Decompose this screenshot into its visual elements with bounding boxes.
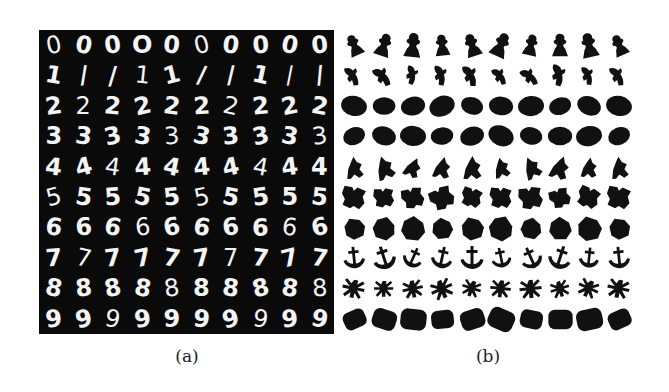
shape-blocky-icon <box>369 182 398 212</box>
shape-irregular-icon <box>399 152 428 182</box>
shape-bird-icon <box>605 60 634 90</box>
digit-sample: / <box>185 58 218 92</box>
shape-irregular-icon <box>458 152 487 182</box>
shape-insect-icon <box>340 273 369 303</box>
digit-sample: 7 <box>185 241 218 275</box>
mnist-digit-grid: 000O0000001//11//1//22222222223333333333… <box>39 30 334 334</box>
digit-sample: O <box>128 30 158 60</box>
shape-ellipse-icon <box>428 121 457 151</box>
caption-a: (a) <box>175 346 198 366</box>
shape-roundrect-icon <box>605 304 634 334</box>
shape-irregular-icon <box>369 152 398 182</box>
shape-blocky-icon <box>605 182 634 212</box>
shape-anchor-icon <box>458 243 487 273</box>
shape-polygon-icon <box>575 212 604 242</box>
shape-irregular-icon <box>487 152 516 182</box>
digit-sample: 7 <box>303 241 336 275</box>
shape-insect-icon <box>458 273 487 303</box>
shape-ellipse-icon <box>458 91 487 121</box>
shape-polygon-icon <box>546 212 575 242</box>
shape-anchor-icon <box>516 243 545 273</box>
shape-polygon-icon <box>399 212 428 242</box>
digit-sample: / <box>215 59 247 91</box>
shape-roundrect-icon <box>575 304 604 334</box>
digit-sample: 9 <box>157 304 187 334</box>
digit-sample: 6 <box>95 210 130 246</box>
shape-insect-icon <box>369 273 398 303</box>
digit-sample: 2 <box>155 89 188 123</box>
digit-sample: 5 <box>67 180 100 214</box>
shape-insect-icon <box>605 273 634 303</box>
shape-insect-icon <box>399 273 428 303</box>
shape-roundrect-icon <box>516 304 545 334</box>
digit-sample: 6 <box>37 210 70 244</box>
shape-irregular-icon <box>428 152 457 182</box>
shape-ellipse-icon <box>458 121 487 151</box>
shape-blocky-icon <box>575 182 604 212</box>
shape-polygon-icon <box>428 212 457 242</box>
digit-sample: 0 <box>96 28 129 62</box>
shape-insect-icon <box>428 273 457 303</box>
digit-sample: 1 <box>37 58 71 93</box>
shape-ellipse-icon <box>340 91 369 121</box>
digit-sample: 5 <box>275 182 305 212</box>
digit-sample: 2 <box>69 91 99 121</box>
shape-anchor-icon <box>369 243 398 273</box>
digit-sample: 9 <box>96 301 130 336</box>
shape-irregular-icon <box>575 152 604 182</box>
digit-sample: 5 <box>303 181 336 214</box>
digit-sample: 3 <box>303 119 336 153</box>
digit-sample: 4 <box>305 152 335 182</box>
shape-roundrect-icon <box>369 304 398 334</box>
shape-blocky-icon <box>546 182 575 212</box>
shape-irregular-icon <box>516 152 545 182</box>
shape-irregular-icon <box>340 152 369 182</box>
shape-anchor-icon <box>487 243 516 273</box>
digit-sample: 8 <box>155 271 188 305</box>
digit-sample: 8 <box>187 273 217 303</box>
shape-irregular-icon <box>605 152 634 182</box>
shape-blocky-icon <box>487 182 516 212</box>
shape-anchor-icon <box>575 243 604 273</box>
shape-roundrect-icon <box>399 304 428 334</box>
shape-roundrect-icon <box>428 304 457 334</box>
shape-polygon-icon <box>369 212 398 242</box>
shape-bird-icon <box>458 60 487 90</box>
shape-blocky-icon <box>399 182 428 212</box>
shape-insect-icon <box>575 273 604 303</box>
shape-ellipse-icon <box>428 91 457 121</box>
shape-blocky-icon <box>516 182 545 212</box>
digit-sample: 6 <box>246 212 276 242</box>
shape-figurine-icon <box>399 30 428 60</box>
shape-bird-icon <box>516 60 545 90</box>
shape-bird-icon <box>369 60 398 90</box>
shape-figurine-icon <box>516 30 545 60</box>
shape-polygon-icon <box>487 212 516 242</box>
shape-insect-icon <box>487 273 516 303</box>
shape-polygon-icon <box>458 212 487 242</box>
shape-figurine-icon <box>605 30 634 60</box>
digit-sample: 3 <box>126 119 159 153</box>
digit-sample: / <box>67 58 100 92</box>
shape-insect-icon <box>516 273 545 303</box>
digit-sample: 9 <box>274 303 306 335</box>
shape-roundrect-icon <box>458 304 487 334</box>
digit-sample: 4 <box>273 150 306 184</box>
digit-sample: 3 <box>184 118 219 154</box>
shape-roundrect-icon <box>487 304 516 334</box>
caption-b: (b) <box>476 346 500 366</box>
digit-sample: 4 <box>96 150 129 184</box>
digit-sample: 7 <box>216 243 246 273</box>
digit-sample: 3 <box>214 120 247 153</box>
digit-sample: 4 <box>154 149 189 185</box>
shape-blocky-icon <box>340 182 369 212</box>
shape-blocky-icon <box>428 182 457 212</box>
digit-sample: 3 <box>273 119 307 154</box>
digit-sample: 8 <box>36 270 71 306</box>
shape-ellipse-icon <box>399 121 428 151</box>
shape-ellipse-icon <box>369 121 398 151</box>
shape-insect-icon <box>546 273 575 303</box>
digit-sample: 3 <box>39 121 69 151</box>
shape-ellipse-icon <box>369 91 398 121</box>
digit-sample: 9 <box>302 301 337 337</box>
